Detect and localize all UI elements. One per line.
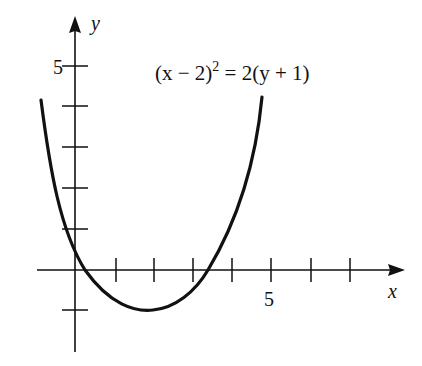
x-axis-label: x	[387, 280, 397, 302]
equation-label: (x − 2)2 = 2(y + 1)	[155, 59, 310, 85]
x-tick-label-5: 5	[264, 288, 274, 310]
y-axis-label: y	[89, 12, 100, 35]
y-axis-arrow-icon	[69, 16, 81, 33]
parabola-chart: 5 5 y x (x − 2)2 = 2(y + 1)	[0, 0, 422, 366]
equation-exponent: 2	[212, 59, 219, 74]
equation-right: = 2(y + 1)	[219, 61, 309, 85]
y-tick-label-5: 5	[53, 56, 63, 78]
equation-left: (x − 2)	[155, 61, 212, 85]
parabola-curve	[41, 97, 262, 310]
x-axis-arrow-icon	[388, 264, 405, 276]
